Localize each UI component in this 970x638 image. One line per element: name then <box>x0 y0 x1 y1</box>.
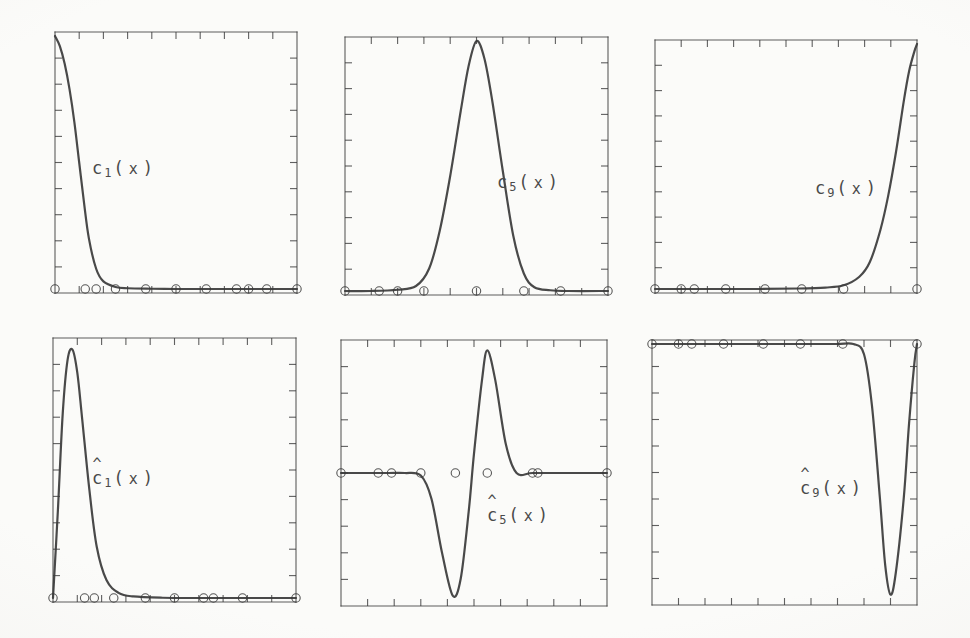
function-argument: x <box>126 160 142 178</box>
open-paren: ( <box>835 178 848 198</box>
data-curve-c5 <box>345 41 608 291</box>
axis-ticks <box>655 40 917 293</box>
plot-canvas-c5 <box>335 27 618 305</box>
plot-canvas-c1hat <box>43 328 306 612</box>
sample-marker <box>110 594 118 602</box>
plot-canvas-c5hat <box>331 330 617 616</box>
hat-accent: ^ <box>488 494 498 509</box>
plot-canvas-c9 <box>645 30 927 303</box>
function-symbol: ^c <box>800 478 811 498</box>
function-symbol: c <box>92 158 103 178</box>
sample-marker <box>451 469 459 477</box>
function-symbol: c <box>815 178 826 198</box>
function-symbol: ^c <box>92 468 103 488</box>
open-paren: ( <box>112 158 125 178</box>
sample-marker <box>90 594 98 602</box>
panel-label-c5hat: ^c5(x) <box>487 505 550 527</box>
panel-label-c1hat: ^c1(x) <box>92 468 155 490</box>
data-curve-c9hat <box>652 343 917 594</box>
plot-canvas-c9hat <box>642 330 927 615</box>
plot-panel-c1hat <box>53 338 306 612</box>
panel-label-c1: c1(x) <box>92 158 155 180</box>
open-paren: ( <box>507 505 520 525</box>
sample-marker <box>520 287 528 295</box>
panel-label-c5: c5(x) <box>497 172 560 194</box>
plot-panel-c5 <box>345 37 618 305</box>
axis-frame <box>53 338 296 602</box>
close-paren: ) <box>537 505 550 525</box>
axis-frame <box>655 40 917 293</box>
hat-accent: ^ <box>93 457 103 472</box>
function-argument: x <box>849 180 865 198</box>
figure-basis-functions: c1(x)c5(x)c9(x)^c1(x)^c5(x)^c9(x) <box>0 0 970 638</box>
plot-canvas-c1 <box>45 22 307 303</box>
function-argument: x <box>834 480 850 498</box>
close-paren: ) <box>865 178 878 198</box>
data-curve-c5hat <box>341 350 607 596</box>
sample-marker <box>80 594 88 602</box>
plot-panel-c9hat <box>652 340 927 615</box>
function-base-letter: c <box>92 158 103 178</box>
plot-panel-c9 <box>655 40 927 303</box>
axis-ticks <box>53 338 296 602</box>
sample-marker <box>92 285 100 293</box>
axis-ticks <box>345 37 608 295</box>
sample-marker <box>483 469 491 477</box>
open-paren: ( <box>517 172 530 192</box>
plot-panel-c5hat <box>341 340 617 616</box>
panel-label-c9: c9(x) <box>815 178 878 200</box>
open-paren: ( <box>820 478 833 498</box>
close-paren: ) <box>547 172 560 192</box>
axis-frame <box>345 37 608 295</box>
data-curve-c1hat <box>53 349 296 598</box>
function-base-letter: c <box>815 178 826 198</box>
function-symbol: ^c <box>487 505 498 525</box>
function-argument: x <box>126 470 142 488</box>
sample-marker <box>81 285 89 293</box>
open-paren: ( <box>112 468 125 488</box>
panel-label-c9hat: ^c9(x) <box>800 478 863 500</box>
data-curve-c9 <box>655 44 917 289</box>
function-argument: x <box>531 174 547 192</box>
close-paren: ) <box>850 478 863 498</box>
close-paren: ) <box>142 158 155 178</box>
function-argument: x <box>521 507 537 525</box>
function-base-letter: c <box>497 172 508 192</box>
hat-accent: ^ <box>801 467 811 482</box>
function-symbol: c <box>497 172 508 192</box>
close-paren: ) <box>142 468 155 488</box>
